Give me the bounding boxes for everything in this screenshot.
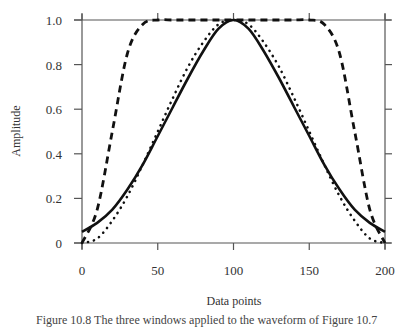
y-axis-label: Amplitude: [9, 105, 23, 156]
x-tick-label: 150: [300, 263, 320, 278]
x-tick-label: 0: [79, 263, 86, 278]
series-dashed-line: [82, 20, 385, 243]
y-tick-label: 0.4: [46, 147, 63, 162]
y-tick-label: 1.0: [46, 13, 62, 28]
figure-caption: Figure 10.8 The three windows applied to…: [36, 313, 377, 328]
y-tick-label: 0: [56, 236, 63, 251]
y-tick-label: 0.2: [46, 191, 62, 206]
y-tick-label: 0.8: [46, 58, 62, 73]
x-tick-label: 100: [224, 263, 244, 278]
x-tick-label: 50: [151, 263, 164, 278]
data-series: [82, 20, 385, 243]
x-axis-label: Data points: [207, 294, 262, 308]
axes: 05010015020000.20.40.60.81.0: [46, 13, 395, 278]
x-tick-label: 200: [375, 263, 395, 278]
y-tick-label: 0.6: [46, 102, 63, 117]
